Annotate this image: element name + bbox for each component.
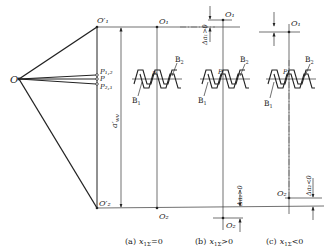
point-P12 [96,74,99,77]
leader-B1-a [138,82,142,96]
label-O1-c: O₁ [291,19,301,28]
label-O2-b: O₂ [226,221,236,230]
ray-O-O2prime [19,79,97,208]
caption-c: (c)x1Σ<0 [266,237,303,247]
panel-b: O₁ Δa₁>0 P B1 B2 O₂ Δa₂>0 (b)x1Σ>0 [195,6,250,247]
caption-a: (a)x1Σ=0 [125,237,163,247]
gear-center-distance-diagram: O P₁,₂ P P₂,₁ O′₁ O′₂ a′ wv O₁ O₂ P B1 B… [0,0,324,250]
label-B1-c: B1 [264,99,273,109]
svg-text:Δa₁>0: Δa₁>0 [201,24,209,46]
label-O2-a: O₂ [159,212,169,221]
label-O1prime: O′₁ [97,16,109,25]
point-O1-c [288,31,291,34]
bottom-reference-line [97,206,324,208]
point-O1-b [222,19,225,22]
ray-construction: O [10,27,97,208]
label-P-c: P [282,68,288,76]
label-O: O [10,74,18,85]
panel-c: O₁ P B1 B2 O₂ Δa₂<0 (c)x1Σ<0 [259,12,322,247]
label-O2prime: O′₂ [99,199,111,208]
label-O2-c: O₂ [277,189,287,198]
svg-text:Δa₂<0: Δa₂<0 [305,175,313,197]
point-O1-a [156,26,159,29]
label-center-distance: a′ wv [110,113,120,128]
label-P21: P₂,₁ [99,83,113,91]
leader-B1-c [270,82,274,98]
label-B1-b: B1 [198,96,207,106]
label-delta-a1-b: Δa₁>0 [201,24,209,46]
label-delta-a2-c: Δa₂<0 [305,175,313,197]
svg-text:Δa₂>0: Δa₂>0 [236,185,244,207]
point-O2-b [222,217,225,220]
ray-O-O1prime [19,27,97,79]
label-P-a: P [151,70,157,78]
point-O2-a [156,207,159,210]
label-O1-a: O₁ [159,17,169,26]
point-O2-c [288,197,291,200]
caption-b: (b)x1Σ>0 [195,237,233,247]
ray-O-P21 [19,79,96,84]
label-O1-b: O₁ [225,10,235,19]
leader-B1-b [204,82,208,96]
label-B2-b: B2 [240,55,249,65]
point-P21 [96,83,99,86]
label-B2-a: B2 [175,55,184,65]
label-delta-a2-b: Δa₂>0 [236,185,244,207]
svg-text:wv: wv [114,113,120,122]
label-B1-a: B1 [132,96,141,106]
label-B2-c: B2 [305,55,314,65]
panel-a: O₁ O₂ P B1 B2 (a)x1Σ=0 [125,17,184,247]
point-P [96,78,99,81]
ray-O-P12 [19,75,96,79]
label-P-b: P [217,68,223,76]
label-P: P [99,75,105,83]
